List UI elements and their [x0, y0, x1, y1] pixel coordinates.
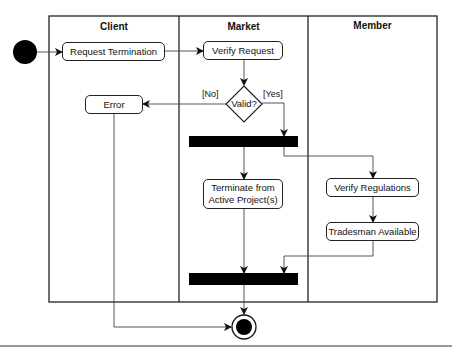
lane-title-member: Member	[308, 20, 437, 31]
join-bar	[189, 273, 298, 285]
action-request-termination: Request Termination	[62, 42, 165, 61]
terminate-line-2: Active Project(s)	[208, 194, 277, 206]
action-error: Error	[85, 95, 143, 114]
guard-yes: [Yes]	[263, 89, 283, 99]
action-terminate-active-projects: Terminate from Active Project(s)	[203, 179, 283, 209]
initial-node	[13, 40, 37, 64]
action-verify-request: Verify Request	[203, 41, 283, 60]
lane-title-market: Market	[179, 21, 308, 32]
action-verify-regulations: Verify Regulations	[326, 178, 419, 197]
action-tradesman-available: Tradesman Available	[326, 222, 419, 241]
lane-title-client: Client	[49, 21, 179, 32]
final-node	[232, 315, 256, 339]
terminate-line-1: Terminate from	[211, 182, 274, 194]
decision-label: Valid?	[226, 98, 262, 109]
guard-no: [No]	[202, 89, 219, 99]
fork-bar	[189, 136, 298, 147]
